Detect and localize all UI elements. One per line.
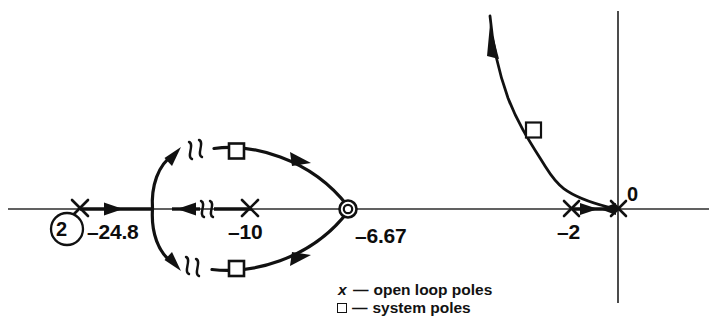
right-branch-path	[490, 16, 608, 207]
zero-label-minus-6-67: –6.67	[355, 225, 407, 246]
legend-label-open-loop-poles: open loop poles	[374, 281, 493, 299]
system-pole-upper-oval	[229, 144, 244, 159]
legend: x — open loop poles — system poles	[337, 281, 492, 317]
system-pole-right-branch	[526, 123, 541, 138]
break-mark-oval-upper	[189, 140, 202, 159]
arrow-oval-upper-right	[290, 152, 311, 166]
pole-label-minus-10: –10	[228, 221, 262, 242]
system-pole-markers	[229, 123, 541, 277]
legend-row-open-loop-poles: x — open loop poles	[337, 281, 492, 299]
root-locus-figure: 2 –24.8 –10 –6.67 –2 0 x — open loop pol…	[0, 0, 716, 336]
pole-label-minus-24-8: –24.8	[87, 221, 139, 242]
arrow-oval-lower-right	[290, 252, 311, 266]
right-complex-branch	[490, 16, 608, 207]
arrow-right-branch-up	[487, 24, 499, 59]
arrow-toward-breakaway	[177, 203, 196, 216]
pole-label-minus-2: –2	[557, 221, 580, 242]
legend-label-system-poles: system poles	[373, 299, 471, 317]
legend-dash-system: —	[352, 299, 373, 317]
arrow-oval-upper-left	[165, 147, 182, 166]
legend-x-icon: x	[337, 281, 353, 299]
break-mark-oval-lower	[186, 257, 199, 276]
system-pole-lower-oval	[229, 261, 244, 276]
open-loop-zero-marker-minus-6-67	[340, 201, 357, 218]
legend-row-system-poles: — system poles	[337, 299, 492, 317]
multiplicity-label-2: 2	[56, 219, 67, 239]
arrow-oval-lower-left	[165, 252, 182, 271]
legend-square-icon	[337, 299, 352, 317]
origin-label-0: 0	[627, 184, 638, 204]
legend-dash-open-loop: —	[353, 281, 374, 299]
arrow-right-of-24-8	[104, 203, 123, 216]
axes-group	[8, 11, 709, 303]
